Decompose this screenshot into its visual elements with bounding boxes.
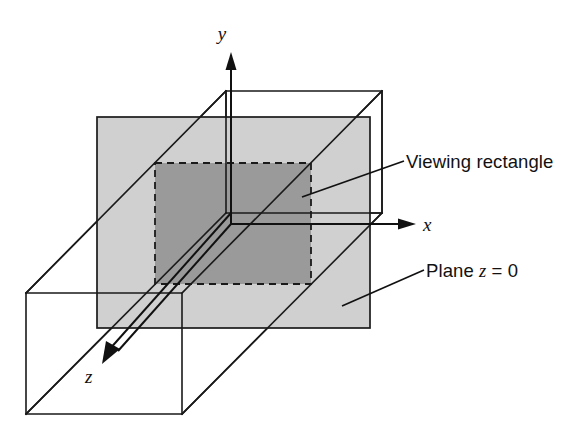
x-axis-label: x [422,214,432,235]
z-axis-arrowhead [102,341,120,364]
figure-root: y x z Viewing rectangle Plane z = 0 [0,0,587,432]
plane-z-zero-prefix: Plane [426,260,479,281]
y-axis-arrowhead [226,52,237,70]
plane-z-zero-variable: z [478,261,486,281]
plane-z-zero-suffix: = 0 [486,260,518,281]
plane-z-zero-label: Plane z = 0 [426,260,518,281]
three-d-viewing-diagram: y x z Viewing rectangle Plane z = 0 [0,0,587,432]
viewing-rectangle-label: Viewing rectangle [406,151,553,172]
x-axis-arrowhead [398,219,416,230]
z-axis-label: z [84,366,93,387]
y-axis-label: y [216,23,227,44]
